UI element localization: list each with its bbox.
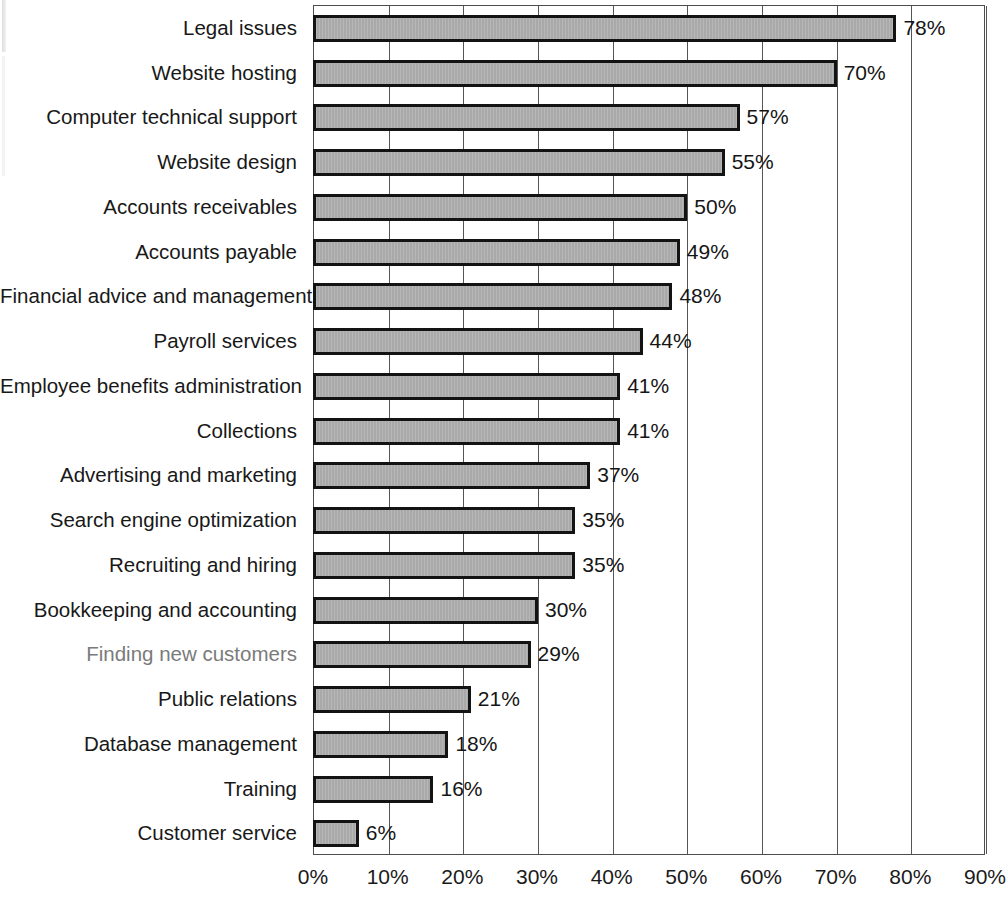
category-label-text: Collections <box>0 408 305 445</box>
bar <box>313 283 672 310</box>
bar-row: 21% <box>314 677 984 722</box>
bar-row: 35% <box>314 543 984 588</box>
bar-row: 37% <box>314 453 984 498</box>
bar-row: 50% <box>314 185 984 230</box>
bar-texture <box>316 510 572 531</box>
category-label-text: Financial advice and management <box>0 273 305 310</box>
category-label: Training <box>0 766 305 811</box>
bar-value-label: 78% <box>903 13 945 42</box>
category-label-text: Website design <box>0 139 305 176</box>
x-tick-label: 30% <box>516 862 558 892</box>
bar-value-label: 50% <box>694 192 736 221</box>
bar <box>313 418 620 445</box>
bar-texture <box>316 555 572 576</box>
x-tick-label: 40% <box>591 862 633 892</box>
x-axis-tick-labels: 0%10%20%30%40%50%60%70%80%90% <box>0 862 1004 898</box>
bar-value-label: 35% <box>582 550 624 579</box>
category-label: Financial advice and management <box>0 273 305 318</box>
x-tick-label: 0% <box>298 862 328 892</box>
category-label-text: Accounts payable <box>0 229 305 266</box>
bar-texture <box>316 689 468 710</box>
bar-row: 35% <box>314 498 984 543</box>
category-label-text: Website hosting <box>0 50 305 87</box>
x-tick-label: 90% <box>964 862 1006 892</box>
bar <box>313 462 590 489</box>
category-label: Accounts receivables <box>0 184 305 229</box>
bar <box>313 552 575 579</box>
bar-row: 78% <box>314 6 984 51</box>
bar <box>313 104 740 131</box>
bar <box>313 731 448 758</box>
bar-texture <box>316 734 445 755</box>
category-label-text: Advertising and marketing <box>0 452 305 489</box>
bar-value-label: 29% <box>538 639 580 668</box>
bar-texture <box>316 197 684 218</box>
category-label: Customer service <box>0 810 305 855</box>
category-label-text: Customer service <box>0 810 305 847</box>
x-tick-label: 80% <box>889 862 931 892</box>
bar <box>313 597 538 624</box>
category-label-text: Finding new customers <box>0 631 305 668</box>
bar-value-label: 16% <box>440 774 482 803</box>
bar-row: 30% <box>314 588 984 633</box>
bar-row: 41% <box>314 364 984 409</box>
bar-texture <box>316 465 587 486</box>
category-label: Computer technical support <box>0 94 305 139</box>
bar-row: 16% <box>314 767 984 812</box>
category-label-text: Database management <box>0 721 305 758</box>
bar-texture <box>316 600 535 621</box>
bar-value-label: 57% <box>747 102 789 131</box>
bar-row: 44% <box>314 319 984 364</box>
bar-texture <box>316 823 356 844</box>
category-label-text: Training <box>0 766 305 803</box>
category-label: Accounts payable <box>0 229 305 274</box>
category-label-text: Computer technical support <box>0 94 305 131</box>
bar-row: 49% <box>314 230 984 275</box>
x-tick-label: 20% <box>441 862 483 892</box>
bar-value-label: 48% <box>679 281 721 310</box>
category-label: Finding new customers <box>0 631 305 676</box>
category-label-text: Recruiting and hiring <box>0 542 305 579</box>
bar <box>313 194 687 221</box>
bar <box>313 239 680 266</box>
category-label-text: Payroll services <box>0 318 305 355</box>
bar <box>313 507 575 534</box>
x-tick-label: 70% <box>815 862 857 892</box>
bar-value-label: 49% <box>687 237 729 266</box>
bar-texture <box>316 644 528 665</box>
bar-row: 18% <box>314 722 984 767</box>
bar <box>313 15 896 42</box>
category-label: Advertising and marketing <box>0 452 305 497</box>
bar-row: 70% <box>314 51 984 96</box>
bar-row: 6% <box>314 811 984 856</box>
bar <box>313 60 837 87</box>
bar-value-label: 41% <box>627 416 669 445</box>
x-tick-label: 50% <box>665 862 707 892</box>
bar-value-label: 30% <box>545 595 587 624</box>
category-label-text: Public relations <box>0 676 305 713</box>
bar-texture <box>316 286 669 307</box>
x-tick-label: 60% <box>740 862 782 892</box>
bar-value-label: 18% <box>455 729 497 758</box>
bar-texture <box>316 331 640 352</box>
bar-row: 55% <box>314 140 984 185</box>
bar-texture <box>316 152 722 173</box>
category-label: Bookkeeping and accounting <box>0 587 305 632</box>
bar-texture <box>316 376 617 397</box>
bar <box>313 149 725 176</box>
bar <box>313 686 471 713</box>
category-label: Website design <box>0 139 305 184</box>
bar-value-label: 21% <box>478 684 520 713</box>
bar <box>313 776 433 803</box>
category-label: Collections <box>0 408 305 453</box>
bar-texture <box>316 779 430 800</box>
bar-value-label: 55% <box>732 147 774 176</box>
category-label: Search engine optimization <box>0 497 305 542</box>
y-axis-category-labels: Legal issuesWebsite hostingComputer tech… <box>0 5 305 855</box>
bar-value-label: 35% <box>582 505 624 534</box>
bar-texture <box>316 107 737 128</box>
bar <box>313 328 643 355</box>
bar-row: 41% <box>314 409 984 454</box>
bar-row: 29% <box>314 632 984 677</box>
bar-value-label: 44% <box>650 326 692 355</box>
